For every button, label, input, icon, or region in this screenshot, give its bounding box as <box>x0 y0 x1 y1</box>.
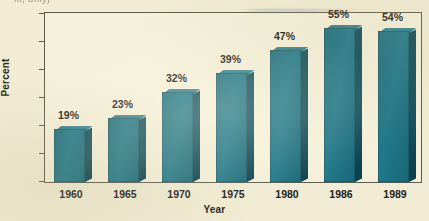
bar-1989 <box>378 31 409 182</box>
x-axis-tick-label-1960: 1960 <box>44 188 98 200</box>
y-axis-tick-mark <box>39 69 45 70</box>
bar-value-label-1965: 23% <box>97 98 148 110</box>
y-axis-tick-mark <box>39 97 45 98</box>
bar-value-label-1960: 19% <box>43 109 94 121</box>
bar-front-face <box>54 129 85 182</box>
bar-side-face <box>301 49 308 182</box>
x-axis-tick-label-1980: 1980 <box>260 188 314 200</box>
bar-1960 <box>54 129 85 182</box>
chart-figure: ilt, Only) Percent Year 010203040506019%… <box>0 0 429 221</box>
bar-side-face <box>409 29 416 182</box>
bar-side-face <box>247 71 254 182</box>
bar-side-face <box>355 27 362 182</box>
x-axis-tick-label-1970: 1970 <box>152 188 206 200</box>
bar-value-label-1989: 54% <box>367 11 418 23</box>
bar-front-face <box>162 92 193 182</box>
bar-side-face <box>139 116 146 182</box>
bar-front-face <box>270 50 301 182</box>
bar-1986 <box>324 28 355 182</box>
bar-side-face <box>193 91 200 182</box>
y-axis-tick-mark <box>39 13 45 14</box>
bar-value-label-1980: 47% <box>259 30 310 42</box>
x-axis-tick-label-1989: 1989 <box>368 188 422 200</box>
y-axis-tick-mark <box>39 181 45 182</box>
y-axis-tick-mark <box>39 125 45 126</box>
bar-front-face <box>324 28 355 182</box>
bar-side-face <box>85 127 92 182</box>
x-axis-title: Year <box>0 204 429 215</box>
bar-1970 <box>162 92 193 182</box>
bar-1980 <box>270 50 301 182</box>
x-axis-tick-label-1975: 1975 <box>206 188 260 200</box>
x-axis-tick-label-1986: 1986 <box>314 188 368 200</box>
y-axis-title: Percent <box>0 43 11 113</box>
bar-value-label-1970: 32% <box>151 72 202 84</box>
bar-1975 <box>216 73 247 182</box>
y-axis-tick-mark <box>39 41 45 42</box>
bar-value-label-1975: 39% <box>205 53 256 65</box>
clipped-caption-text: ilt, Only) <box>14 0 50 4</box>
bar-front-face <box>378 31 409 182</box>
y-axis-tick-mark <box>39 153 45 154</box>
bar-front-face <box>216 73 247 182</box>
bar-1965 <box>108 118 139 182</box>
bar-front-face <box>108 118 139 182</box>
x-axis-tick-label-1965: 1965 <box>98 188 152 200</box>
bar-value-label-1986: 55% <box>313 8 364 20</box>
